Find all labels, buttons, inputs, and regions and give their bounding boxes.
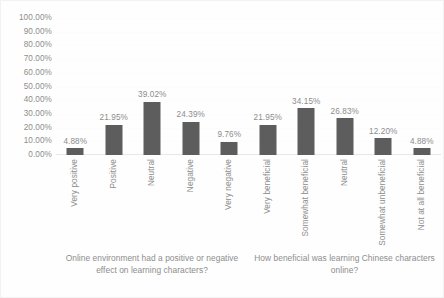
bar-value-label: 24.39% [177,111,205,119]
x-axis-tick-label: Neutral [341,159,349,186]
x-axis-tick-label: Positive [110,159,118,188]
cat-slot: Somewhat unbeneficial [364,157,403,249]
x-axis-tick-label: Very positive [71,159,79,207]
y-axis-tick-label: 20.00% [0,124,52,132]
cat-slot: Somewhat beneficial [287,157,326,249]
cat-slot: Not at all beneficial [403,157,442,249]
bar[interactable] [144,102,161,156]
bar-slot: 12.20% [364,18,403,155]
axis-group-title-2: How beneficial was learning Chinese char… [248,252,441,276]
bar-value-label: 9.76% [217,131,241,139]
bar[interactable] [375,138,392,155]
plot-area: 4.88% 21.95% 39.02% 24.39% 9.76% 21.95% … [56,18,441,155]
cat-slot: Neutral [133,157,172,249]
bar[interactable] [413,148,430,155]
x-axis-tick-label: Somewhat beneficial [302,159,310,236]
bar-value-label: 39.02% [138,91,166,99]
bar-slot: 4.88% [403,18,442,155]
bar-slot: 21.95% [95,18,134,155]
x-axis-tick-label: Neutral [148,159,156,186]
bar[interactable] [298,108,315,155]
bar-slot: 34.15% [287,18,326,155]
x-axis-tick-label: Somewhat unbeneficial [379,159,387,246]
y-axis-tick-label: 90.00% [0,28,52,36]
bar-value-label: 4.88% [63,138,87,146]
bar[interactable] [336,118,353,155]
y-axis-tick-label: 80.00% [0,41,52,49]
bar-slot: 21.95% [249,18,288,155]
bar-chart: 100.00% 90.00% 80.00% 70.00% 60.00% 50.0… [0,0,444,298]
y-axis-tick-label: 50.00% [0,83,52,91]
bar-value-label: 26.83% [331,108,359,116]
y-axis-tick-label: 60.00% [0,69,52,77]
y-axis: 100.00% 90.00% 80.00% 70.00% 60.00% 50.0… [0,18,54,155]
bar-value-label: 21.95% [254,114,282,122]
bar[interactable] [67,148,84,155]
x-axis-tick-label: Very negative [225,159,233,210]
bar-slot: 9.76% [210,18,249,155]
bar-slot: 26.83% [326,18,365,155]
bar[interactable] [259,125,276,155]
bar-slot: 39.02% [133,18,172,155]
y-axis-tick-label: 100.00% [0,14,52,22]
x-axis-tick-label: Very beneficial [264,159,272,214]
y-axis-tick-label: 30.00% [0,110,52,118]
bar-slot: 4.88% [56,18,95,155]
bar[interactable] [105,125,122,155]
cat-slot: Very positive [56,157,95,249]
x-axis-category-labels: Very positive Positive Neutral Negative … [56,157,441,249]
y-axis-tick-label: 0.00% [0,151,52,159]
bar-slot: 24.39% [172,18,211,155]
axis-group-title-1: Online environment had a positive or neg… [56,252,248,276]
bar[interactable] [182,122,199,155]
bar-value-label: 34.15% [292,98,320,106]
cat-slot: Neutral [326,157,365,249]
bar-value-label: 12.20% [369,128,397,136]
bar[interactable] [221,142,238,155]
bar-value-label: 4.88% [410,138,434,146]
y-axis-tick-label: 70.00% [0,55,52,63]
bar-value-label: 21.95% [100,114,128,122]
cat-slot: Very negative [210,157,249,249]
cat-slot: Positive [95,157,134,249]
y-axis-tick-label: 10.00% [0,137,52,145]
cat-slot: Very beneficial [249,157,288,249]
x-axis-tick-label: Not at all beneficial [418,159,426,230]
cat-slot: Negative [172,157,211,249]
x-axis-tick-label: Negative [187,159,195,192]
y-axis-tick-label: 40.00% [0,96,52,104]
